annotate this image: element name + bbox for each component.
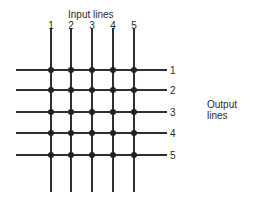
crosspoint-2-5: [68, 152, 74, 158]
crosspoint-3-1: [89, 67, 95, 73]
input-line-label-2: 2: [66, 20, 76, 31]
crosspoint-1-1: [48, 67, 54, 73]
crosspoint-5-5: [131, 152, 137, 158]
crosspoint-3-2: [89, 87, 95, 93]
crosspoint-1-3: [48, 109, 54, 115]
crosspoint-2-4: [68, 130, 74, 136]
crosspoint-2-3: [68, 109, 74, 115]
crosspoint-4-5: [110, 152, 116, 158]
crosspoint-3-5: [89, 152, 95, 158]
crosspoint-5-4: [131, 130, 137, 136]
crosspoint-1-5: [48, 152, 54, 158]
crosspoint-4-3: [110, 109, 116, 115]
crosspoint-1-4: [48, 130, 54, 136]
crosspoint-5-3: [131, 109, 137, 115]
output-line-label-3: 3: [170, 107, 180, 118]
input-line-label-1: 1: [46, 20, 56, 31]
crosspoint-4-4: [110, 130, 116, 136]
output-line-label-5: 5: [170, 150, 180, 161]
crosspoint-4-2: [110, 87, 116, 93]
output-lines-title: Output lines: [207, 99, 247, 121]
crosspoint-2-1: [68, 67, 74, 73]
output-line-label-1: 1: [170, 65, 180, 76]
output-title-line1: Output: [207, 99, 247, 110]
crosspoint-4-1: [110, 67, 116, 73]
crosspoint-5-2: [131, 87, 137, 93]
output-title-line2: lines: [207, 110, 247, 121]
crosspoint-3-4: [89, 130, 95, 136]
crosspoint-3-3: [89, 109, 95, 115]
crosspoint-5-1: [131, 67, 137, 73]
input-lines-title: Input lines: [68, 9, 114, 20]
input-line-label-3: 3: [87, 20, 97, 31]
input-line-label-4: 4: [108, 20, 118, 31]
output-line-label-4: 4: [170, 128, 180, 139]
crosspoint-2-2: [68, 87, 74, 93]
crosspoint-1-2: [48, 87, 54, 93]
input-line-label-5: 5: [129, 20, 139, 31]
output-line-label-2: 2: [170, 85, 180, 96]
